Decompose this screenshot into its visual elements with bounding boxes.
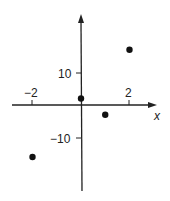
data-point bbox=[102, 112, 108, 118]
chart-canvas: −2 2 10 −10 x bbox=[0, 0, 170, 201]
x-tick-label-2: 2 bbox=[125, 86, 132, 100]
y-axis bbox=[81, 22, 82, 191]
scatter-chart: −2 2 10 −10 x bbox=[0, 0, 170, 201]
y-tick-label-neg10: −10 bbox=[50, 132, 71, 146]
y-axis-arrow-icon bbox=[78, 14, 84, 23]
y-tick-label-10: 10 bbox=[58, 67, 72, 81]
data-point bbox=[29, 154, 35, 160]
x-tick-label-neg2: −2 bbox=[24, 86, 38, 100]
x-axis-arrow-icon bbox=[148, 102, 157, 108]
data-point bbox=[78, 95, 84, 101]
x-axis-label: x bbox=[153, 109, 161, 123]
data-point bbox=[126, 47, 132, 53]
